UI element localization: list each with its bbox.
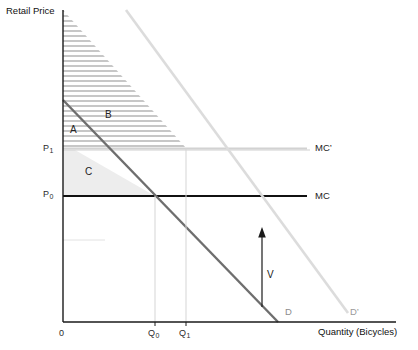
region-label-b: B	[105, 110, 112, 120]
curve-label-demand-shifted: D’	[350, 307, 359, 317]
y-tick-p1-sub: 1	[50, 147, 54, 154]
x-tick-q1-base: Q	[179, 328, 186, 338]
region-label-a: A	[70, 125, 77, 135]
demand-shifted-line	[126, 10, 348, 313]
x-tick-q0-sub: 0	[156, 332, 160, 339]
x-tick-q1-sub: 1	[187, 332, 191, 339]
chart-container: Retail Price Quantity (Bicycles) 0 Q0 Q1…	[0, 0, 418, 350]
y-tick-label-p1: P1	[43, 144, 53, 153]
curve-label-mc-shifted: MC’	[315, 143, 332, 153]
y-axis-title: Retail Price	[6, 6, 55, 16]
region-label-c: C	[85, 167, 92, 177]
y-tick-p1-base: P	[43, 143, 49, 153]
x-tick-label-q1: Q1	[179, 329, 190, 338]
x-tick-label-origin: 0	[59, 329, 64, 338]
hatched-region-group	[63, 10, 186, 148]
region-C-fill	[63, 150, 155, 196]
curve-label-demand: D	[285, 307, 292, 317]
hatched-region-AB	[63, 10, 186, 148]
x-tick-q0-base: Q	[148, 328, 155, 338]
chart-plot-svg	[0, 0, 418, 350]
y-tick-label-p0: P0	[43, 190, 53, 199]
annotation-label-v: V	[267, 270, 274, 280]
v-shift-arrow	[258, 227, 266, 307]
x-axis-title: Quantity (Bicycles)	[318, 327, 397, 337]
y-tick-p0-base: P	[43, 189, 49, 199]
curve-label-mc: MC	[315, 191, 330, 201]
y-tick-p0-sub: 0	[50, 193, 54, 200]
x-tick-label-q0: Q0	[148, 329, 159, 338]
